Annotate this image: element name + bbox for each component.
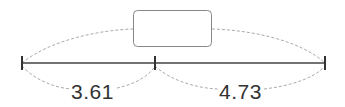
segment-1-label: 3.61 [70, 81, 115, 102]
arc-box-to-right [212, 29, 325, 63]
unknown-total-box [134, 11, 212, 47]
segment-2-label: 4.73 [218, 81, 263, 102]
diagram-svg [0, 0, 345, 107]
diagram: 3.61 4.73 [0, 0, 345, 107]
arc-left-to-box [22, 29, 133, 63]
